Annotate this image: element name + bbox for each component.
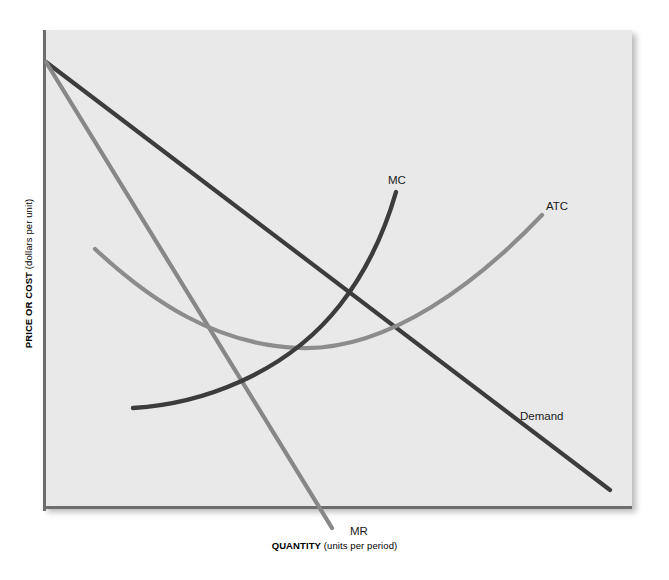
y-axis-title: PRICE OR COST (dollars per unit) [23, 174, 34, 374]
mc-curve-label: MC [388, 174, 406, 186]
y-axis-line [43, 30, 46, 511]
mr-curve-label: MR [350, 525, 368, 537]
x-axis-title-plain: (units per period) [321, 540, 397, 551]
x-axis-line [43, 506, 632, 509]
demand-curve-label: Demand [520, 410, 563, 422]
y-axis-title-plain: (dollars per unit) [23, 199, 34, 272]
y-axis-title-bold: PRICE OR COST [23, 272, 34, 348]
x-axis-title: QUANTITY (units per period) [0, 540, 669, 551]
economics-diagram-figure: PRICE OR COST (dollars per unit) MC ATC … [0, 0, 669, 580]
plot-area [43, 30, 632, 508]
atc-curve-label: ATC [546, 200, 568, 212]
x-axis-title-bold: QUANTITY [272, 540, 321, 551]
